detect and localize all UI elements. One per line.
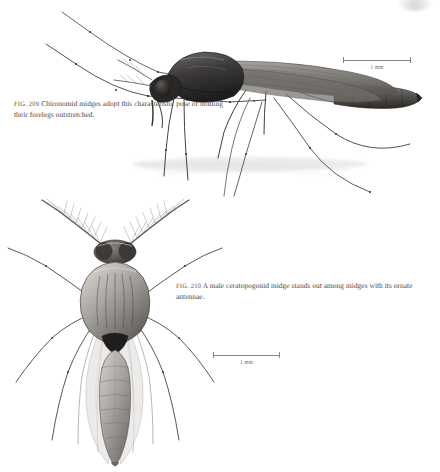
genitalia	[111, 462, 119, 466]
head-dorsal	[94, 240, 136, 264]
scalebar-label: 1 mm	[213, 359, 280, 365]
compound-eye	[155, 80, 171, 97]
ground-shadow	[132, 157, 368, 176]
figure-210-caption-text: A male ceratopogonid midge stands out am…	[176, 281, 413, 301]
scalebar-tick-right	[410, 57, 411, 63]
figure-210-number: FIG. 210	[176, 283, 201, 290]
figure-210-caption: FIG. 210 A male ceratopogonid midge stan…	[176, 281, 416, 303]
figure-210-scalebar: 1 mm	[213, 352, 280, 365]
figure-210-illustration	[8, 196, 223, 471]
scalebar-rule	[213, 352, 280, 358]
figure-209-caption: FIG. 209 Chironomid midges adopt this ch…	[14, 99, 236, 121]
scalebar-rule	[343, 57, 411, 63]
scalebar-line	[343, 60, 411, 61]
front-leg-joints	[165, 149, 187, 155]
plumose-antenna-right	[124, 199, 189, 248]
scalebar-tick-left	[213, 352, 214, 358]
figure-209-scalebar: 1 mm	[343, 57, 411, 70]
plumose-antenna-left	[42, 199, 107, 248]
scalebar-tick-left	[343, 57, 344, 63]
scalebar-label: 1 mm	[343, 64, 411, 70]
scalebar-tick-right	[279, 352, 280, 358]
antennae	[114, 59, 152, 86]
figure-209-number: FIG. 209	[14, 101, 39, 108]
book-figure-page: FIG. 209 Chironomid midges adopt this ch…	[0, 0, 440, 472]
scalebar-line	[213, 355, 280, 356]
figure-209-caption-text: Chironomid midges adopt this characteris…	[14, 99, 223, 119]
